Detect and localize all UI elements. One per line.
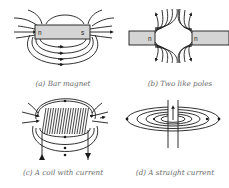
- pole-label-n-left: n: [148, 35, 152, 42]
- magnetic-field-figure: n s n n: [0, 0, 229, 188]
- caption-two-like-poles: (b) Two like poles: [140, 79, 220, 88]
- caption-straight-current: (d) A straight current: [132, 168, 218, 177]
- caption-coil-with-current: (c) A coil with current: [18, 168, 108, 177]
- straight-current-diagram: [126, 100, 221, 148]
- caption-bar-magnet: (a) Bar magnet: [33, 79, 93, 88]
- pole-label-n: n: [38, 29, 42, 36]
- pole-label-n-right: n: [194, 35, 198, 42]
- coil-with-current-diagram: [22, 99, 108, 160]
- bar-magnet-diagram: n s: [14, 10, 114, 65]
- two-like-poles-diagram: n n: [129, 9, 229, 63]
